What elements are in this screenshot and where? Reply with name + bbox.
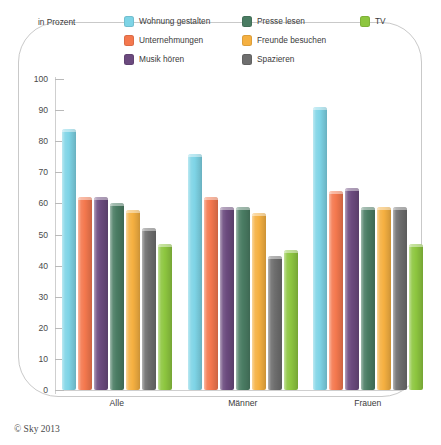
chart-legend: in Prozent Wohnung gestaltenUnternehmung… <box>38 12 398 70</box>
legend-swatch-unternehmungen-icon <box>124 35 134 46</box>
legend-label-unternehmungen: Unternehmungen <box>139 36 203 44</box>
legend-label-musik-hoeren: Musik hören <box>139 55 184 63</box>
legend-label-wohnung-gestalten: Wohnung gestalten <box>139 17 210 25</box>
copyright-notice: © Sky 2013 <box>14 424 60 434</box>
legend-swatch-freunde-besuchen-icon <box>242 35 252 46</box>
x-axis-group-label-alle: Alle <box>110 398 124 408</box>
x-axis-group-label-frauen: Frauen <box>354 398 381 408</box>
legend-item-freunde-besuchen[interactable]: Freunde besuchen <box>242 35 360 46</box>
legend-label-tv: TV <box>375 17 386 25</box>
legend-swatch-wohnung-gestalten-icon <box>124 16 134 27</box>
legend-label-presse-lesen: Presse lesen <box>257 17 305 25</box>
legend-swatch-spazieren-icon <box>242 54 252 65</box>
chart-card <box>18 22 422 397</box>
axis-unit-label: in Prozent <box>38 17 124 27</box>
x-axis-group-label-männer: Männer <box>228 398 257 408</box>
legend-item-presse-lesen[interactable]: Presse lesen <box>242 16 360 27</box>
legend-swatch-tv-icon <box>360 16 370 27</box>
legend-swatch-musik-hoeren-icon <box>124 54 134 65</box>
legend-label-freunde-besuchen: Freunde besuchen <box>257 36 326 44</box>
legend-item-wohnung-gestalten[interactable]: Wohnung gestalten <box>124 16 242 27</box>
legend-item-spazieren[interactable]: Spazieren <box>242 54 360 65</box>
legend-swatch-presse-lesen-icon <box>242 16 252 27</box>
legend-label-spazieren: Spazieren <box>257 55 294 63</box>
legend-item-unternehmungen[interactable]: Unternehmungen <box>124 35 242 46</box>
legend-item-musik-hoeren[interactable]: Musik hören <box>124 54 242 65</box>
legend-item-tv[interactable]: TV <box>360 16 404 27</box>
